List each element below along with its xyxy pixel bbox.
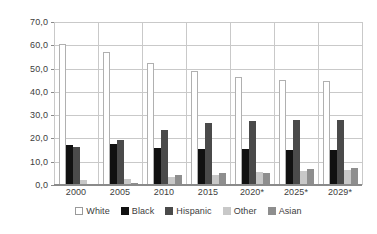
- legend-label: Other: [234, 206, 257, 216]
- legend-item-asian[interactable]: Asian: [268, 206, 302, 216]
- plot-area: 70,060,050,040,030,020,010,00,0: [54, 22, 362, 185]
- legend-label: Black: [132, 206, 155, 216]
- bar-black-2025[interactable]: [286, 150, 293, 185]
- bar-hispanic-2010[interactable]: [161, 130, 168, 185]
- bar-white-2010[interactable]: [147, 63, 154, 185]
- legend-label: Asian: [279, 206, 302, 216]
- bar-group: [318, 22, 362, 185]
- bar-other-2025[interactable]: [300, 171, 307, 185]
- y-axis-tick-label: 50,0: [30, 64, 48, 74]
- bar-group: [142, 22, 186, 185]
- legend-item-hispanic[interactable]: Hispanic: [165, 206, 211, 216]
- bar-hispanic-2000[interactable]: [73, 147, 80, 185]
- bar-asian-2025[interactable]: [307, 169, 314, 185]
- legend-label: Hispanic: [176, 206, 211, 216]
- bar-black-2015[interactable]: [198, 149, 205, 185]
- x-axis-label: 2010: [142, 187, 186, 197]
- category-separator: [362, 22, 363, 185]
- bar-chart: 70,060,050,040,030,020,010,00,0 20002005…: [0, 0, 377, 234]
- bar-white-2029[interactable]: [323, 81, 330, 185]
- x-axis-label: 2005: [98, 187, 142, 197]
- bar-black-2005[interactable]: [110, 144, 117, 185]
- y-axis-tick-label: 60,0: [30, 40, 48, 50]
- x-axis-label: 2020*: [230, 187, 274, 197]
- bar-black-2000[interactable]: [66, 145, 73, 185]
- y-axis-tick-label: 30,0: [30, 110, 48, 120]
- bar-black-2029[interactable]: [330, 150, 337, 185]
- x-axis-label: 2025*: [274, 187, 318, 197]
- x-axis-label: 2015: [186, 187, 230, 197]
- bar-other-2029[interactable]: [344, 170, 351, 185]
- bar-group: [230, 22, 274, 185]
- legend-swatch-icon: [268, 207, 276, 215]
- y-axis-tick-label: 40,0: [30, 87, 48, 97]
- chart-legend: WhiteBlackHispanicOtherAsian: [0, 206, 377, 216]
- bar-asian-2029[interactable]: [351, 168, 358, 185]
- bar-white-2015[interactable]: [191, 71, 198, 185]
- bar-white-2005[interactable]: [103, 52, 110, 185]
- legend-swatch-icon: [75, 207, 83, 215]
- bar-hispanic-2025[interactable]: [293, 120, 300, 185]
- legend-swatch-icon: [121, 207, 129, 215]
- y-axis-tick-label: 70,0: [30, 17, 48, 27]
- legend-item-white[interactable]: White: [75, 206, 110, 216]
- y-axis-tick-label: 20,0: [30, 133, 48, 143]
- bar-white-2020[interactable]: [235, 77, 242, 185]
- y-axis-tick: [51, 185, 54, 186]
- bar-group: [54, 22, 98, 185]
- bar-hispanic-2029[interactable]: [337, 120, 344, 185]
- bar-hispanic-2015[interactable]: [205, 123, 212, 185]
- x-axis-labels: 20002005201020152020*2025*2029*: [54, 187, 362, 197]
- y-axis-tick-label: 10,0: [30, 157, 48, 167]
- legend-label: White: [86, 206, 110, 216]
- y-axis-tick-label: 0,0: [35, 180, 48, 190]
- bar-white-2000[interactable]: [59, 44, 66, 185]
- bar-group: [274, 22, 318, 185]
- x-axis-line: [54, 184, 362, 185]
- bar-group: [186, 22, 230, 185]
- bar-group: [98, 22, 142, 185]
- bar-groups: [54, 22, 362, 185]
- gridline: [54, 185, 362, 186]
- legend-item-other[interactable]: Other: [223, 206, 257, 216]
- bar-black-2020[interactable]: [242, 149, 249, 185]
- bar-black-2010[interactable]: [154, 148, 161, 185]
- x-axis-label: 2000: [54, 187, 98, 197]
- bar-hispanic-2020[interactable]: [249, 121, 256, 185]
- legend-swatch-icon: [223, 207, 231, 215]
- legend-swatch-icon: [165, 207, 173, 215]
- bar-hispanic-2005[interactable]: [117, 140, 124, 185]
- legend-item-black[interactable]: Black: [121, 206, 155, 216]
- bar-white-2025[interactable]: [279, 80, 286, 185]
- x-axis-label: 2029*: [318, 187, 362, 197]
